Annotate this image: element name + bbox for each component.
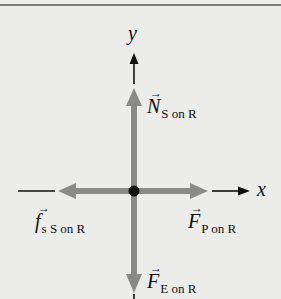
vector-arrow-icon: → [150, 262, 162, 274]
object-dot [129, 186, 140, 197]
vector-arrow-icon: → [38, 202, 50, 214]
push-force-label: →FP on R [188, 211, 236, 232]
friction-force-label: →fs S on R [35, 211, 85, 232]
y-axis [130, 53, 139, 84]
friction-force-arrow [58, 183, 134, 199]
free-body-diagram [0, 0, 281, 299]
force-subscript-lower: s [42, 221, 47, 236]
normal-force-arrow [126, 88, 142, 191]
normal-force-label: →NS on R [147, 96, 197, 117]
y-axis-label: y [128, 22, 137, 45]
vector-arrow-icon: → [191, 202, 203, 214]
force-subscript: P on R [201, 221, 236, 236]
push-force-arrow [134, 183, 208, 199]
gravity-force-label: →FE on R [147, 271, 196, 292]
force-subscript: E on R [160, 281, 196, 296]
x-axis-label: x [257, 178, 266, 201]
vector-arrow-icon: → [150, 87, 162, 99]
gravity-force-arrow [126, 191, 142, 293]
x-axis [212, 187, 250, 196]
force-subscript: S on R [50, 221, 85, 236]
force-subscript: S on R [161, 106, 196, 121]
